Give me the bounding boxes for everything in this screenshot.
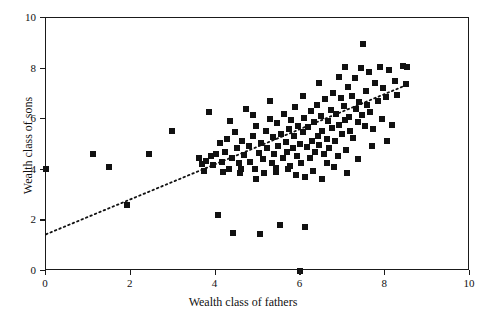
data-point	[326, 145, 332, 151]
data-point	[288, 117, 294, 123]
data-point	[344, 170, 350, 176]
data-point	[124, 202, 130, 208]
x-tick-label: 0	[30, 277, 60, 290]
data-point	[355, 119, 361, 125]
data-point	[341, 103, 347, 109]
data-point	[356, 99, 362, 105]
data-point	[332, 138, 338, 144]
data-point	[274, 120, 280, 126]
data-point	[352, 75, 358, 81]
data-point	[318, 113, 324, 119]
data-point	[201, 168, 207, 174]
data-point	[224, 136, 230, 142]
y-tick	[40, 68, 45, 69]
data-point	[325, 118, 331, 124]
data-point	[392, 78, 398, 84]
data-point	[247, 159, 253, 165]
data-point	[290, 145, 296, 151]
data-point	[319, 176, 325, 182]
x-tick	[469, 270, 470, 275]
data-point	[294, 153, 300, 159]
data-point	[222, 149, 228, 155]
data-point	[379, 116, 385, 122]
data-point	[339, 131, 345, 137]
data-point	[261, 170, 267, 176]
data-point	[308, 108, 314, 114]
data-point	[196, 155, 202, 161]
data-point	[283, 139, 289, 145]
data-point	[271, 151, 277, 157]
x-tick-label: 8	[369, 277, 399, 290]
data-point	[292, 104, 298, 110]
data-point	[310, 168, 316, 174]
data-point	[238, 166, 244, 172]
data-point	[293, 172, 299, 178]
data-point	[359, 112, 365, 118]
data-point	[336, 74, 342, 80]
data-point	[250, 112, 256, 118]
x-tick	[215, 270, 216, 275]
data-point	[286, 126, 292, 132]
data-point	[346, 114, 352, 120]
data-point	[366, 69, 372, 75]
x-tick	[384, 270, 385, 275]
data-point	[314, 102, 320, 108]
data-point	[219, 159, 225, 165]
data-point	[291, 133, 297, 139]
data-point	[360, 41, 366, 47]
data-point	[232, 129, 238, 135]
data-point	[349, 93, 355, 99]
data-point	[260, 156, 266, 162]
data-point	[404, 64, 410, 70]
data-point	[226, 166, 232, 172]
data-point	[363, 88, 369, 94]
plot-area	[46, 18, 468, 269]
data-point	[322, 96, 328, 102]
data-point	[230, 230, 236, 236]
data-point	[394, 92, 400, 98]
data-point	[217, 140, 223, 146]
data-point	[347, 128, 353, 134]
data-point	[386, 67, 392, 73]
x-tick-label: 10	[454, 277, 484, 290]
data-point	[253, 176, 259, 182]
data-point	[335, 153, 341, 159]
data-point	[316, 142, 322, 148]
data-point	[227, 118, 233, 124]
data-point	[316, 80, 322, 86]
data-point	[215, 212, 221, 218]
data-point	[295, 123, 301, 129]
x-tick	[45, 270, 46, 275]
data-point	[239, 138, 245, 144]
x-axis-title: Wealth class of fathers	[0, 295, 486, 310]
data-point	[367, 109, 373, 115]
data-point	[389, 122, 395, 128]
data-point	[330, 90, 336, 96]
data-point	[403, 81, 409, 87]
data-point	[234, 145, 240, 151]
data-point	[350, 135, 356, 141]
data-point	[267, 116, 273, 122]
data-point	[229, 155, 235, 161]
data-point	[302, 174, 308, 180]
x-tick	[130, 270, 131, 275]
data-point	[106, 164, 112, 170]
data-point	[345, 84, 351, 90]
x-tick	[299, 270, 300, 275]
y-tick	[40, 169, 45, 170]
data-point	[384, 138, 390, 144]
data-point	[273, 165, 279, 171]
data-point	[338, 95, 344, 101]
data-point	[256, 150, 262, 156]
data-point	[324, 136, 330, 142]
data-point	[241, 152, 247, 158]
data-point	[311, 119, 317, 125]
data-point	[362, 123, 368, 129]
data-point	[304, 144, 310, 150]
data-point	[380, 85, 386, 91]
data-point	[270, 134, 276, 140]
data-point	[370, 126, 376, 132]
x-tick-label: 6	[284, 277, 314, 290]
data-point	[281, 111, 287, 117]
y-axis-title: Wealth class of sons	[21, 66, 36, 226]
